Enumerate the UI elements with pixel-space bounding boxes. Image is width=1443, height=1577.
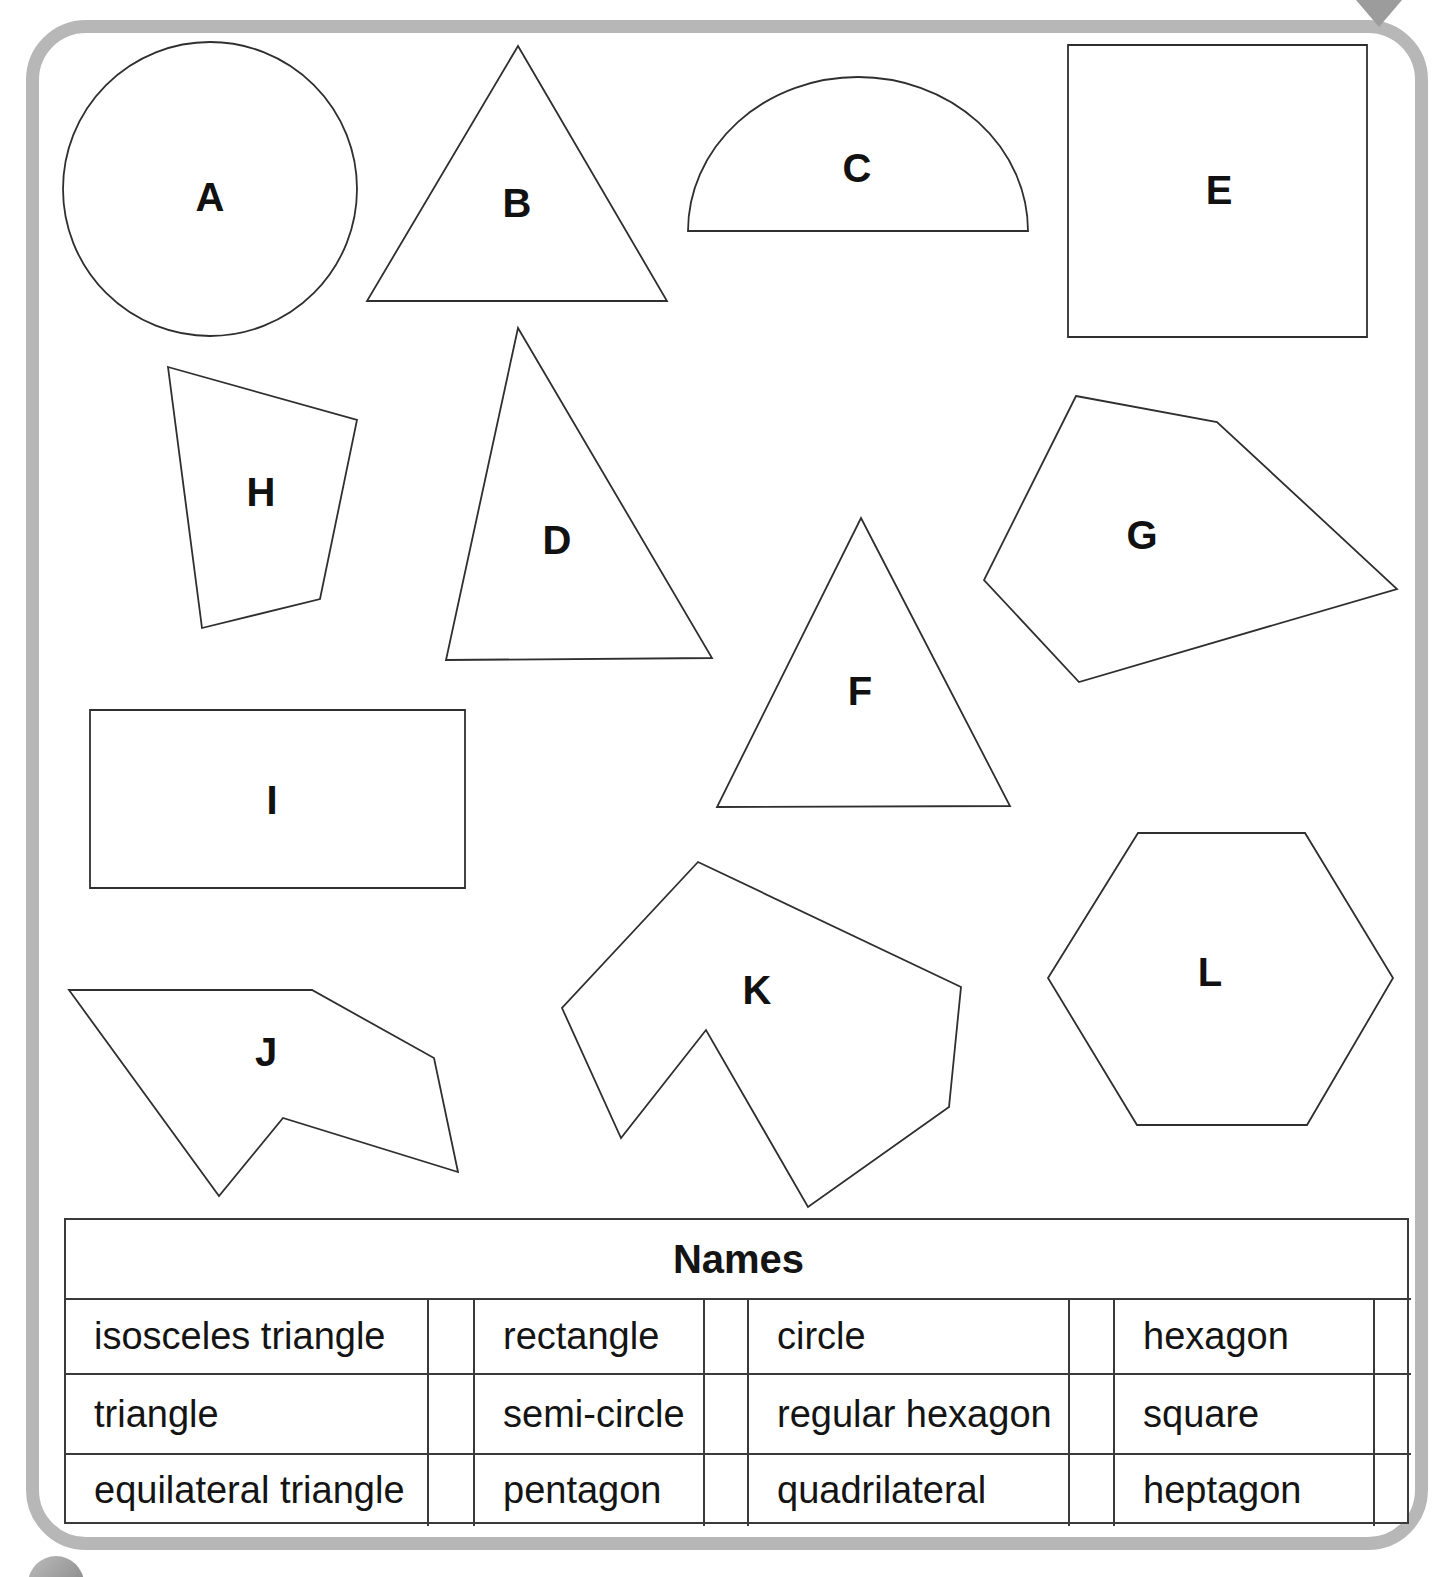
answer-box [705, 1300, 749, 1375]
answer-box [429, 1300, 475, 1375]
shape-name-cell: quadrilateral [749, 1455, 1070, 1526]
answer-box [429, 1375, 475, 1455]
shape-name-cell: heptagon [1115, 1455, 1375, 1526]
answer-box [1070, 1300, 1115, 1375]
shape-D [446, 328, 712, 660]
shape-name-cell: pentagon [475, 1455, 705, 1526]
shape-name-cell: rectangle [475, 1300, 705, 1375]
shape-K [562, 862, 961, 1207]
shape-B [367, 46, 667, 301]
shape-name-cell: circle [749, 1300, 1070, 1375]
shape-label-J: J [255, 1030, 277, 1074]
shape-label-E: E [1206, 168, 1233, 212]
worksheet-page: ABCEHDFGIJKL Names isosceles triangle re… [0, 0, 1443, 1577]
answer-box [705, 1375, 749, 1455]
shape-label-C: C [843, 146, 872, 190]
corner-arrow-icon [1356, 0, 1402, 27]
shape-label-D: D [543, 518, 572, 562]
shape-name-cell: semi-circle [475, 1375, 705, 1455]
shape-name-cell: hexagon [1115, 1300, 1375, 1375]
shape-label-F: F [848, 669, 872, 713]
shape-J [69, 990, 458, 1196]
names-table-title: Names [66, 1220, 1411, 1300]
shape-label-L: L [1198, 950, 1222, 994]
shape-name-cell: regular hexagon [749, 1375, 1070, 1455]
shape-label-A: A [196, 175, 225, 219]
answer-box [1070, 1455, 1115, 1526]
names-table: Names isosceles triangle rectangle circl… [64, 1218, 1409, 1524]
shape-name-cell: square [1115, 1375, 1375, 1455]
answer-box [1070, 1375, 1115, 1455]
answer-box [1375, 1455, 1411, 1526]
shape-label-K: K [743, 968, 772, 1012]
answer-box [429, 1455, 475, 1526]
shape-name-cell: triangle [66, 1375, 429, 1455]
shape-label-G: G [1126, 513, 1157, 557]
shape-G [984, 396, 1397, 682]
answer-box [1375, 1300, 1411, 1375]
shape-name-cell: isosceles triangle [66, 1300, 429, 1375]
shape-label-I: I [266, 778, 277, 822]
answer-box [705, 1455, 749, 1526]
answer-box [1375, 1375, 1411, 1455]
shape-F [717, 518, 1010, 807]
shape-label-B: B [503, 181, 532, 225]
shape-label-H: H [247, 470, 276, 514]
shape-name-cell: equilateral triangle [66, 1455, 429, 1526]
